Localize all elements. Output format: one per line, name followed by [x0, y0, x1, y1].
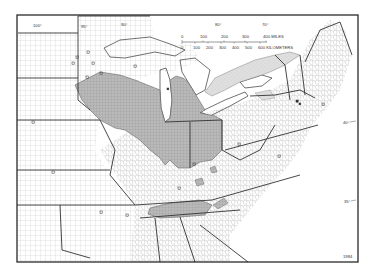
scale-km-600: 600 KILOMETERS — [258, 45, 293, 50]
lon-label-90: 90° — [121, 22, 128, 27]
figure-code: 1984 — [343, 254, 353, 259]
scale-mi-200: 200 — [221, 34, 229, 39]
scale-km-500: 500 — [245, 45, 253, 50]
lon-label-95: 95° — [81, 24, 88, 29]
scale-km-200: 200 — [206, 45, 214, 50]
scale-km-300: 300 — [219, 45, 227, 50]
distribution-map: 0 100 200 300 400 MILES 0 100 200 300 40… — [0, 0, 375, 280]
scale-km-100: 100 — [193, 45, 201, 50]
lat-label-35: 35° — [344, 199, 351, 204]
lon-label-100: 100° — [33, 23, 42, 28]
lon-label-80: 80° — [215, 22, 222, 27]
scale-mi-300: 300 — [242, 34, 250, 39]
lon-label-70: 70° — [262, 22, 269, 27]
scale-mi-400: 400 MILES — [263, 34, 284, 39]
lat-label-40: 40° — [343, 120, 350, 125]
scale-mi-100: 100 — [200, 34, 208, 39]
scale-km-400: 400 — [232, 45, 240, 50]
